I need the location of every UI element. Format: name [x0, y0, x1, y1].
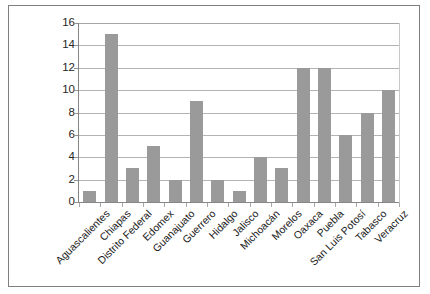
bar: [190, 101, 203, 202]
y-axis-tick-mark: [74, 135, 78, 136]
plot-right-edge: [399, 23, 400, 203]
bar: [382, 90, 395, 202]
x-axis-tick-mark: [143, 203, 144, 207]
bar: [83, 191, 96, 202]
y-axis-tick-mark: [74, 68, 78, 69]
bar: [297, 68, 310, 202]
y-axis-tick-mark: [74, 23, 78, 24]
x-axis-tick-mark: [228, 203, 229, 207]
y-axis-tick-mark: [74, 202, 78, 203]
x-axis-tick-mark: [399, 203, 400, 207]
bar: [361, 113, 374, 203]
x-axis-tick-mark: [100, 203, 101, 207]
bar: [233, 191, 246, 202]
x-axis-category-labels: AguascalientesChiapasDistrito FederalEdo…: [9, 206, 421, 288]
x-axis-tick-mark: [271, 203, 272, 207]
y-axis-tick-label: 2: [35, 174, 75, 186]
bar: [169, 180, 182, 202]
x-axis-tick-mark: [314, 203, 315, 207]
x-axis-tick-mark: [292, 203, 293, 207]
bar: [275, 168, 288, 202]
x-axis-tick-mark: [122, 203, 123, 207]
bar: [339, 135, 352, 202]
chart-screenshot: 1614121086420 AguascalientesChiapasDistr…: [0, 0, 430, 294]
y-axis-tick-label: 12: [35, 62, 75, 74]
x-axis-line: [78, 202, 399, 203]
x-axis-tick-mark: [79, 203, 80, 207]
bar-series: [79, 23, 399, 202]
y-axis-tick-label: 4: [35, 152, 75, 164]
y-axis-tick-mark: [74, 90, 78, 91]
y-axis-tick-mark: [74, 113, 78, 114]
y-axis-tick-label: 10: [35, 84, 75, 96]
y-axis-tick-mark: [74, 157, 78, 158]
y-axis-tick-labels: 1614121086420: [31, 23, 75, 203]
bar: [126, 168, 139, 202]
x-axis-tick-mark: [335, 203, 336, 207]
y-axis-tick-mark: [74, 45, 78, 46]
y-axis-tick-label: 8: [35, 107, 75, 119]
y-axis-tick-label: 14: [35, 40, 75, 52]
bar: [211, 180, 224, 202]
x-axis-tick-mark: [250, 203, 251, 207]
x-axis-tick-mark: [356, 203, 357, 207]
y-axis-tick-label: 16: [35, 17, 75, 29]
x-axis-tick-mark: [186, 203, 187, 207]
bar: [254, 157, 267, 202]
chart-frame: 1614121086420 AguascalientesChiapasDistr…: [8, 5, 420, 287]
bar: [318, 68, 331, 202]
y-axis-tick-label: 6: [35, 129, 75, 141]
y-axis-tick-mark: [74, 180, 78, 181]
x-axis-tick-mark: [164, 203, 165, 207]
x-axis-tick-mark: [378, 203, 379, 207]
bar: [105, 34, 118, 202]
bar: [147, 146, 160, 202]
x-axis-tick-mark: [207, 203, 208, 207]
